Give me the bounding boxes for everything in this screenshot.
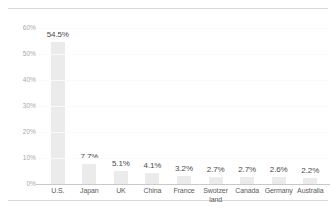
gridline (38, 106, 330, 107)
x-category-label: U.S. (42, 187, 74, 205)
chart-page: 60%50%40%30%20%10%0% 54.5%7.7%5.1%4.1%3.… (0, 0, 336, 210)
y-tick-label: 10% (2, 155, 36, 162)
bar-value-label: 5.1% (112, 160, 130, 168)
bar[interactable] (209, 177, 223, 184)
x-category-label: Swotzer land (200, 187, 232, 205)
x-category-label: Canada (231, 187, 263, 205)
bar[interactable] (272, 177, 286, 184)
gridline (38, 54, 330, 55)
gridline (38, 28, 330, 29)
x-category-label: UK (105, 187, 137, 205)
bar-value-label: 2.2% (301, 167, 319, 175)
x-axis-category-labels: U.S.JapanUKChinaFranceSwotzer landCanada… (38, 187, 330, 205)
y-tick-label: 40% (2, 77, 36, 84)
gridline (38, 132, 330, 133)
y-tick-label: 30% (2, 103, 36, 110)
x-category-label: France (168, 187, 200, 205)
bar-value-label: 2.6% (270, 166, 288, 174)
bar-value-label: 2.7% (207, 166, 225, 174)
plot-area: 54.5%7.7%5.1%4.1%3.2%2.7%2.7%2.6%2.2% (38, 28, 330, 184)
gridline (38, 80, 330, 81)
divider-top (8, 8, 328, 9)
y-tick-label: 20% (2, 129, 36, 136)
x-category-label: Germany (263, 187, 295, 205)
x-axis-line (36, 184, 330, 185)
y-axis-tick-labels: 60%50%40%30%20%10%0% (0, 28, 36, 184)
bar[interactable] (114, 171, 128, 184)
bar[interactable] (177, 176, 191, 184)
bar-value-label: 54.5% (47, 31, 69, 39)
bar[interactable] (145, 173, 159, 184)
y-tick-label: 0% (2, 181, 36, 188)
bar[interactable] (82, 164, 96, 184)
x-category-label: China (137, 187, 169, 205)
x-category-label: Japan (74, 187, 106, 205)
bar[interactable] (240, 177, 254, 184)
bar-chart: 60%50%40%30%20%10%0% 54.5%7.7%5.1%4.1%3.… (0, 12, 336, 198)
bar-value-label: 7.7% (80, 153, 98, 161)
bar-value-label: 4.1% (144, 162, 162, 170)
y-tick-label: 50% (2, 51, 36, 58)
bar-value-label: 2.7% (238, 166, 256, 174)
gridline (38, 158, 330, 159)
bar-value-label: 3.2% (175, 165, 193, 173)
x-category-label: Australia (295, 187, 327, 205)
bar[interactable] (51, 42, 65, 184)
y-tick-label: 60% (2, 25, 36, 32)
